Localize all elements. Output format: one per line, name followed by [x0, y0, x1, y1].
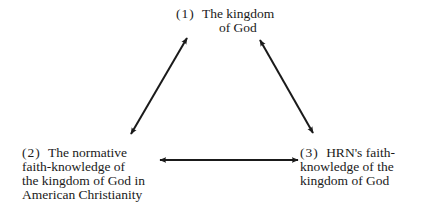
- node-label-line: American Christianity: [22, 188, 145, 202]
- node-number: (2): [22, 145, 41, 160]
- node-label-line: The normative: [48, 145, 127, 160]
- node-number: (1): [176, 6, 195, 21]
- node-number: (3): [300, 145, 319, 160]
- edge-arrow-1-3: [260, 40, 313, 133]
- node-hrn-faith-knowledge: (3) HRN's faith- knowledge of the kingdo…: [300, 146, 395, 188]
- edge-arrow-1-2: [131, 38, 187, 134]
- node-label-line: faith-knowledge of: [22, 160, 145, 174]
- node-label-line: HRN's faith-: [326, 145, 395, 160]
- node-label-line: knowledge of the: [300, 160, 395, 174]
- node-label-line: The kingdom: [202, 6, 274, 21]
- node-normative-faith-knowledge: (2) The normative faith-knowledge of the…: [22, 146, 145, 202]
- node-label-line: kingdom of God: [300, 174, 395, 188]
- node-kingdom-of-god: (1) The kingdom of God: [176, 7, 274, 35]
- node-label-line: of God: [176, 21, 274, 35]
- node-label-line: the kingdom of God in: [22, 174, 145, 188]
